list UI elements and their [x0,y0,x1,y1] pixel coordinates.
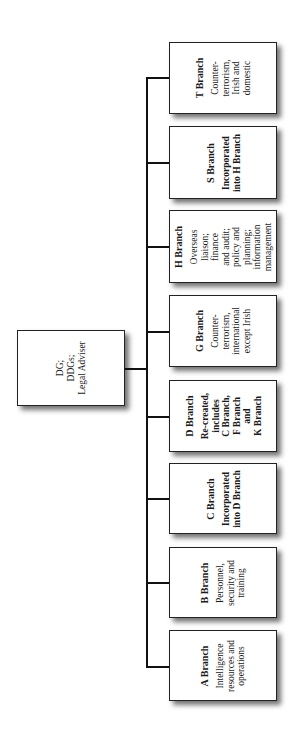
connector-a [146,666,169,668]
branch-desc-line: and audit; [221,222,232,271]
branch-desc-line: C Branch, [221,393,232,440]
branch-label-t: T Branch Counter- terrorism, Irish and d… [194,58,252,99]
root-label: DG; DDGs; Legal Adviser [55,341,88,395]
branch-label-a: A Branch Intelligence resources and oper… [199,640,247,692]
branch-desc-line: finance [210,222,221,271]
branch-desc-line: international [231,307,242,355]
branch-box-s: S Branch Incorporated into H Branch [169,126,277,199]
branch-title: D Branch [184,393,196,440]
branch-desc-line: Re-created, [200,393,211,440]
branch-title: A Branch [199,640,211,692]
branch-title: G Branch [194,307,206,355]
connector-h [146,246,169,248]
branch-desc-line: includes [210,393,221,440]
branch-desc-line: policy and [231,222,242,271]
branch-desc-line: domestic [242,58,253,99]
connector-b [146,582,169,584]
root-line-3: Legal Adviser [77,341,88,395]
branch-title: B Branch [199,559,211,605]
branch-box-d: D Branch Re-created, includes C Branch, … [169,380,277,452]
branch-desc-line: Irish and [231,58,242,99]
branch-desc-line: management [263,222,274,271]
branch-desc-line: Personnel, [215,559,226,605]
branch-label-s: S Branch Incorporated into H Branch [205,133,242,191]
branch-box-t: T Branch Counter- terrorism, Irish and d… [169,42,277,114]
branch-desc-line: liaison; [200,222,211,271]
branch-box-g: G Branch Counter- terrorism, internation… [169,295,277,367]
root-line-2: DDGs; [66,341,77,395]
branch-desc-line: into H Branch [231,133,242,191]
connector-c [146,498,169,500]
branch-desc-line: F Branch [231,393,242,440]
root-connector [125,368,148,370]
branch-title: T Branch [194,58,206,99]
branch-desc-line: terrorism, [221,307,232,355]
branch-desc-line: except Irish [242,307,253,355]
branch-desc-line: terrorism, [221,58,232,99]
branch-label-b: B Branch Personnel, security and trainin… [199,559,247,605]
branch-desc-line: K Branch [252,393,263,440]
branch-desc-line: Incorporated [221,470,232,528]
branch-title: C Branch [205,470,217,528]
branch-desc-line: information [252,222,263,271]
branch-desc-line: security and [226,559,237,605]
branch-title: H Branch [173,222,185,271]
branch-desc-line: Overseas [189,222,200,271]
branch-box-h: H Branch Overseas liaison; finance and a… [169,210,277,283]
branch-label-g: G Branch Counter- terrorism, internation… [194,307,252,355]
trunk-line [146,77,148,667]
branch-box-b: B Branch Personnel, security and trainin… [169,547,277,618]
root-box-dg: DG; DDGs; Legal Adviser [17,330,125,406]
branch-desc-line: and [242,393,253,440]
connector-t [146,77,169,79]
branch-desc-line: Intelligence [215,640,226,692]
branch-desc-line: Counter- [210,307,221,355]
branch-desc-line: Incorporated [221,133,232,191]
branch-label-c: C Branch Incorporated into D Branch [205,470,242,528]
branch-label-d: D Branch Re-created, includes C Branch, … [184,393,263,440]
root-line-1: DG; [55,341,66,395]
branch-label-h: H Branch Overseas liaison; finance and a… [173,222,273,271]
connector-d [146,416,169,418]
branch-desc-line: planning; [242,222,253,271]
connector-g [146,331,169,333]
branch-title: S Branch [205,133,217,191]
branch-desc-line: resources and [226,640,237,692]
branch-box-c: C Branch Incorporated into D Branch [169,463,277,534]
branch-desc-line: into D Branch [231,470,242,528]
branch-desc-line: training [236,559,247,605]
branch-box-a: A Branch Intelligence resources and oper… [169,630,277,701]
branch-desc-line: operations [236,640,247,692]
branch-desc-line: Counter- [210,58,221,99]
connector-s [146,162,169,164]
